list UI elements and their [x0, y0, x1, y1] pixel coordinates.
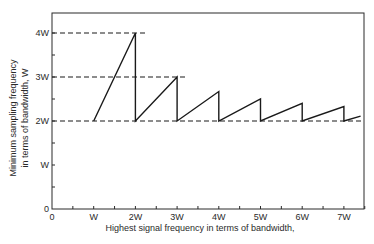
x-tick-label: 7W — [337, 212, 351, 222]
x-tick-label: 2W — [129, 212, 143, 222]
y-tick-label: W — [41, 160, 50, 170]
sampling-frequency-chart: 0W2W3W4W5W6W7W 0W2W3W4W Highest signal f… — [0, 0, 374, 244]
x-tick-label: 6W — [295, 212, 309, 222]
x-tick-label: 3W — [170, 212, 184, 222]
x-tick-label: W — [89, 212, 98, 222]
x-tick-label: 4W — [212, 212, 226, 222]
x-tick-label: 5W — [254, 212, 268, 222]
y-tick-label: 3W — [36, 72, 50, 82]
x-tick-label: 0 — [49, 212, 54, 222]
x-axis-label: Highest signal frequency in terms of ban… — [105, 223, 294, 233]
reference-lines — [52, 33, 364, 121]
y-axis-label-line1: Minimum sampling frequency — [8, 59, 18, 177]
y-tick-label: 2W — [36, 116, 50, 126]
y-axis-label: Minimum sampling frequency in terms of b… — [8, 59, 30, 177]
y-axis-label-line2: in terms of bandwidth, W — [20, 68, 30, 168]
y-tick-label: 0 — [44, 204, 49, 214]
y-tick-label: 4W — [36, 28, 50, 38]
x-axis-ticks: 0W2W3W4W5W6W7W — [49, 206, 364, 222]
